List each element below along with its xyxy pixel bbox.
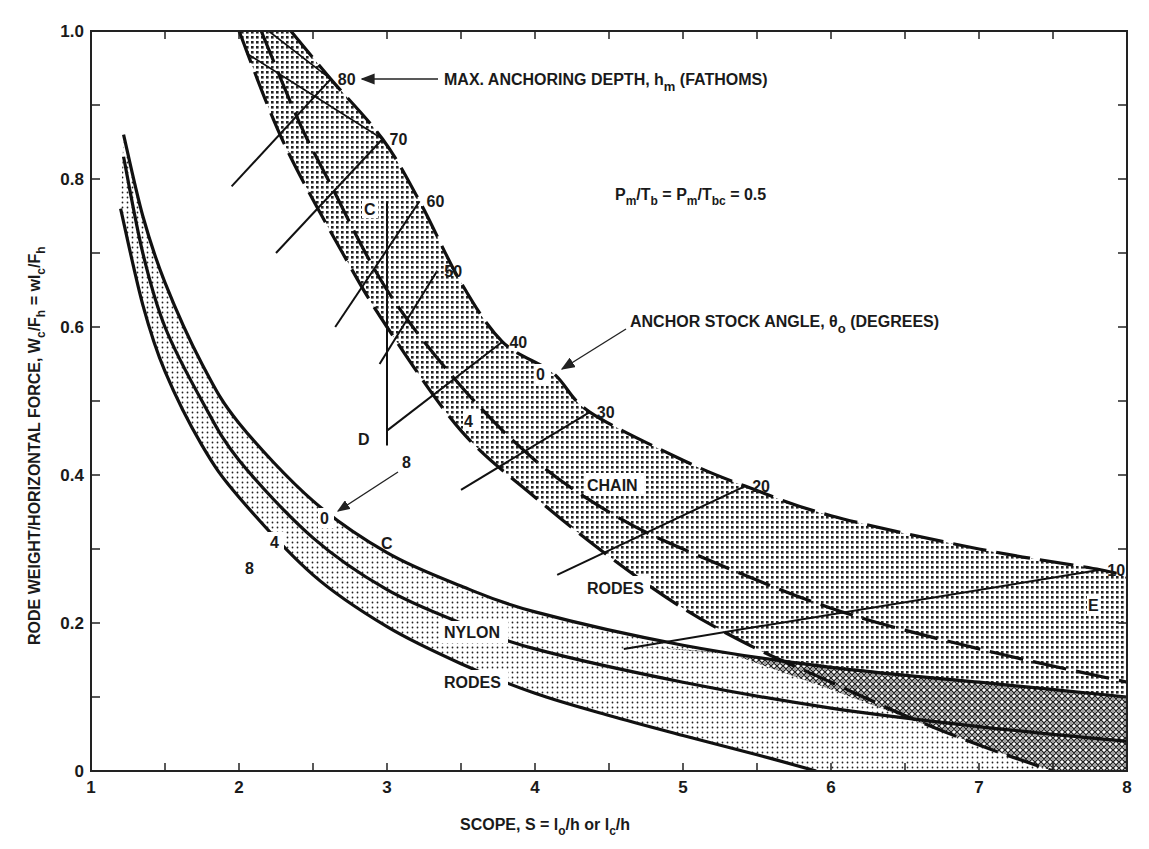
nylon-theta-0-label: 0: [320, 510, 329, 527]
depth-label-20: 20: [752, 478, 770, 495]
chain-theta-4-label: 4: [464, 413, 473, 430]
stock-angle-arrow: [562, 329, 626, 369]
ratio-annotation: Pm/Tb = Pm/Tbc = 0.5: [615, 186, 766, 208]
depth-label-80: 80: [338, 71, 356, 88]
y-axis-label: RODE WEIGHT/HORIZONTAL FORCE, Wc/Fh = wl…: [26, 246, 48, 645]
point-c-nylon: C: [381, 535, 393, 552]
x-tick-labels: 12345678: [86, 778, 1131, 797]
y-tick-label: 0.2: [60, 614, 84, 633]
point-e: E: [1088, 597, 1099, 614]
x-tick-label: 7: [974, 778, 983, 797]
y-tick-label: 0: [75, 762, 84, 781]
y-tick-labels: 00.20.40.60.81.0: [60, 22, 84, 781]
x-axis-label: SCOPE, S = lo/h or lc/h: [460, 816, 630, 838]
chain-rodes-label: RODES: [587, 580, 644, 597]
x-tick-label: 2: [234, 778, 243, 797]
theta-8-arrow: [338, 472, 398, 511]
depth-label-70: 70: [390, 131, 408, 148]
depth-label-40: 40: [509, 334, 527, 351]
y-tick-label: 0.6: [60, 318, 84, 337]
x-tick-label: 6: [826, 778, 835, 797]
point-d: D: [358, 431, 370, 448]
chain-theta-0-label: 0: [536, 366, 545, 383]
x-tick-label: 8: [1122, 778, 1131, 797]
chain-theta-8-label: 8: [402, 454, 411, 471]
depth-label-10: 10: [1107, 562, 1125, 579]
x-tick-label: 3: [382, 778, 391, 797]
nylon-rodes-label: RODES: [444, 674, 501, 691]
point-c-chain: C: [364, 201, 376, 218]
max-depth-annotation: MAX. ANCHORING DEPTH, hm (FATHOMS): [444, 71, 768, 94]
nylon-label: NYLON: [444, 624, 500, 641]
y-tick-label: 0.8: [60, 170, 84, 189]
depth-label-60: 60: [427, 193, 445, 210]
x-tick-label: 1: [86, 778, 95, 797]
x-tick-label: 4: [530, 778, 540, 797]
chain-label: CHAIN: [587, 477, 638, 494]
chart: 12345678 00.20.40.60.81.0 SCOPE, S = lo/…: [0, 0, 1149, 849]
stock-angle-annotation: ANCHOR STOCK ANGLE, θo (DEGREES): [630, 313, 939, 336]
depth-label-30: 30: [597, 404, 615, 421]
x-tick-label: 5: [678, 778, 687, 797]
depth-label-50: 50: [444, 263, 462, 280]
y-tick-label: 0.4: [60, 466, 84, 485]
y-tick-label: 1.0: [60, 22, 84, 41]
nylon-theta-8-label: 8: [245, 560, 254, 577]
nylon-theta-4-label: 4: [270, 534, 279, 551]
